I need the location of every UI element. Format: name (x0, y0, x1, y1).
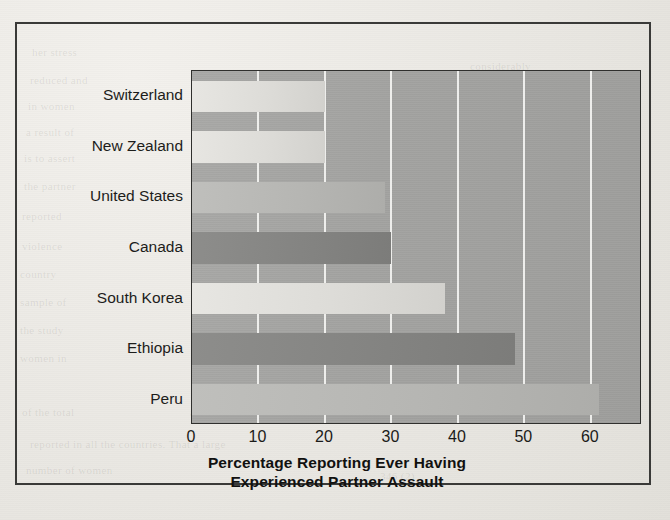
x-axis-title-line-1: Percentage Reporting Ever Having (37, 454, 637, 473)
bar-peru (192, 384, 599, 415)
bar-switzerland (192, 81, 325, 112)
bar-canada (192, 232, 391, 263)
x-axis-title: Percentage Reporting Ever Having Experie… (37, 454, 637, 492)
category-label-switzerland: Switzerland (103, 86, 183, 104)
category-label-ethiopia: Ethiopia (127, 339, 183, 357)
category-label-peru: Peru (150, 390, 183, 408)
x-tick-label-50: 50 (514, 428, 532, 446)
bar-row (192, 333, 640, 364)
bar-row (192, 182, 640, 213)
x-axis-title-line-2: Experienced Partner Assault (37, 473, 637, 492)
bar-row (192, 384, 640, 415)
bar-row (192, 232, 640, 263)
x-tick-label-30: 30 (382, 428, 400, 446)
category-label-new-zealand: New Zealand (92, 137, 183, 155)
bar-south-korea (192, 283, 445, 314)
bar-row (192, 81, 640, 112)
category-axis-labels: SwitzerlandNew ZealandUnited StatesCanad… (17, 70, 183, 424)
value-axis-ticks: 0102030405060 (191, 428, 641, 452)
figure-frame: SwitzerlandNew ZealandUnited StatesCanad… (15, 22, 651, 485)
x-tick-label-20: 20 (315, 428, 333, 446)
x-tick-label-60: 60 (581, 428, 599, 446)
bar-row (192, 283, 640, 314)
bar-united-states (192, 182, 385, 213)
bar-new-zealand (192, 131, 325, 162)
bar-row (192, 131, 640, 162)
category-label-canada: Canada (129, 238, 183, 256)
category-label-united-states: United States (90, 187, 183, 205)
category-label-south-korea: South Korea (97, 289, 183, 307)
x-tick-label-40: 40 (448, 428, 466, 446)
x-tick-label-0: 0 (187, 428, 196, 446)
bar-ethiopia (192, 333, 515, 364)
plot-area (191, 70, 641, 424)
x-tick-label-10: 10 (249, 428, 267, 446)
